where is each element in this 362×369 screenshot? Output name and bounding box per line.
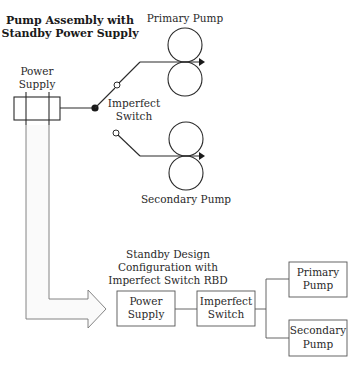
secondary-pump-label: Secondary Pump [141,193,231,205]
diagram-canvas: Pump Assembly with Standby Power Supply … [0,0,362,369]
title-line-2: Standby Power Supply [1,27,139,40]
transform-arrow-icon [26,125,106,328]
rbd-parallel-connector [255,279,289,338]
rbd-block-power-supply: Power Supply [117,291,175,326]
rbd-switch-line-1: Imperfect [200,295,253,307]
power-supply-symbol [14,92,60,125]
switch-label-line-1: Imperfect [108,97,161,109]
title-line-1: Pump Assembly with [6,14,134,27]
rbd-power-supply-line-2: Supply [128,308,165,320]
rbd-primary-line-2: Pump [303,279,334,291]
rbd-title-line-2: Configuration with [118,261,218,273]
rbd-primary-line-1: Primary [297,266,340,278]
rbd-secondary-line-1: Secondary [290,324,346,336]
rbd-title: Standby Design Configuration with Imperf… [108,248,227,286]
diagram-title: Pump Assembly with Standby Power Supply [1,14,139,40]
rbd-secondary-line-2: Pump [303,338,334,350]
primary-pump-label: Primary Pump [147,12,224,24]
rbd-title-line-3: Imperfect Switch RBD [108,274,227,286]
power-supply-label-line-1: Power [20,65,54,77]
rbd-power-supply-line-1: Power [129,295,163,307]
rbd-switch-line-2: Switch [208,308,245,320]
rbd-block-imperfect-switch: Imperfect Switch [197,291,255,326]
rbd-title-line-1: Standby Design [126,248,210,260]
rbd-block-primary-pump: Primary Pump [289,262,347,297]
switch-label-line-2: Switch [116,110,153,122]
switch-label: Imperfect Switch [108,97,161,122]
power-supply-label-line-2: Supply [19,78,56,90]
rbd-block-secondary-pump: Secondary Pump [289,320,347,356]
power-supply-label: Power Supply [19,65,56,90]
